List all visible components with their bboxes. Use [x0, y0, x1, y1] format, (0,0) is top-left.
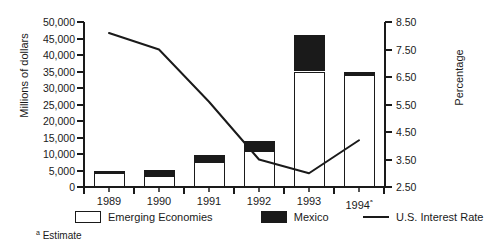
y-tick-left [77, 120, 84, 122]
y-tick-label-right: 3.50 [396, 155, 416, 166]
x-tick-major [133, 188, 135, 194]
legend-item-u-s-interest-rate[interactable]: U.S. Interest Rate [363, 209, 483, 225]
y-tick-label-right: 5.50 [396, 100, 416, 111]
footnote: a Estimate [36, 228, 82, 240]
x-tick-minor [358, 188, 360, 192]
x-tick-label: 1991 [197, 196, 221, 207]
x-tick-minor [208, 188, 210, 192]
x-tick-minor [108, 188, 110, 192]
x-tick-major [383, 188, 385, 194]
legend-item-emerging-economies[interactable]: Emerging Economies [75, 209, 213, 225]
y-tick-right [385, 131, 392, 133]
y-tick-label-right: 7.50 [396, 45, 416, 56]
plot-area [84, 22, 384, 187]
chart-figure: Millions of dollars Percentage 05,00010,… [0, 0, 487, 240]
y-tick-left [77, 104, 84, 106]
y-tick-label-left: 30,000 [43, 83, 75, 94]
y-tick-label-left: 0 [69, 182, 75, 193]
y-tick-left [77, 87, 84, 89]
y-tick-label-right: 2.50 [396, 182, 416, 193]
y-tick-label-left: 45,000 [43, 34, 75, 45]
y-axis-title-right: Percentage [454, 23, 465, 133]
x-tick-major [333, 188, 335, 194]
y-tick-label-left: 40,000 [43, 50, 75, 61]
y-tick-right [385, 186, 392, 188]
y-tick-label-left: 10,000 [43, 149, 75, 160]
y-tick-label-left: 15,000 [43, 133, 75, 144]
footnote-marker: a [36, 229, 40, 236]
y-tick-left [77, 170, 84, 172]
chart-legend: Emerging EconomiesMexicoU.S. Interest Ra… [75, 209, 415, 225]
y-tick-label-right: 4.50 [396, 127, 416, 138]
y-tick-right [385, 104, 392, 106]
y-tick-right [385, 21, 392, 23]
x-tick-major [233, 188, 235, 194]
legend-swatch-black-box-icon [261, 211, 287, 223]
interest-rate-line-series [84, 22, 384, 187]
x-tick-minor [258, 188, 260, 192]
interest-rate-polyline [109, 33, 359, 173]
x-tick-label: 1993 [297, 196, 321, 207]
x-tick-minor [158, 188, 160, 192]
y-tick-label-left: 35,000 [43, 67, 75, 78]
y-tick-left [77, 54, 84, 56]
y-tick-label-right: 6.50 [396, 72, 416, 83]
y-tick-label-left: 20,000 [43, 116, 75, 127]
legend-label: U.S. Interest Rate [396, 212, 483, 223]
legend-label: Mexico [294, 212, 329, 223]
x-tick-minor [308, 188, 310, 192]
x-tick-major [283, 188, 285, 194]
y-tick-right [385, 159, 392, 161]
legend-label: Emerging Economies [108, 212, 213, 223]
y-tick-left [77, 38, 84, 40]
y-tick-right [385, 49, 392, 51]
y-tick-label-left: 25,000 [43, 100, 75, 111]
footnote-text: Estimate [43, 230, 82, 240]
y-tick-right [385, 76, 392, 78]
y-tick-label-left: 50,000 [43, 17, 75, 28]
x-tick-major [183, 188, 185, 194]
x-tick-label: 1989 [97, 196, 121, 207]
y-tick-left [77, 21, 84, 23]
x-tick-label: 1992 [247, 196, 271, 207]
x-tick-major [83, 188, 85, 194]
legend-swatch-line-icon [363, 211, 389, 223]
y-tick-label-left: 5,000 [49, 166, 75, 177]
x-tick-label: 1990 [147, 196, 171, 207]
y-tick-label-right: 8.50 [396, 17, 416, 28]
y-axis-title-left: Millions of dollars [19, 16, 30, 136]
legend-swatch-white-box-icon [75, 211, 101, 223]
legend-item-mexico[interactable]: Mexico [261, 209, 329, 225]
y-tick-left [77, 153, 84, 155]
y-tick-left [77, 137, 84, 139]
y-tick-left [77, 71, 84, 73]
